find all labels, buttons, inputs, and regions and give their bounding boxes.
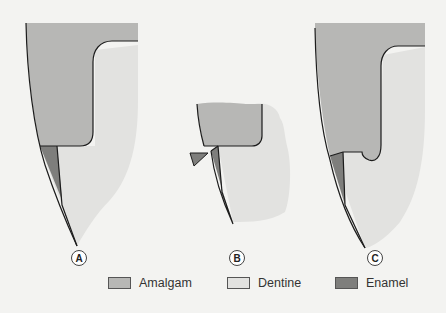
enamel-chip-b (190, 153, 208, 166)
legend-label-enamel: Enamel (366, 276, 408, 290)
legend-label-dentine: Dentine (258, 276, 301, 290)
legend-item-dentine: Dentine (227, 276, 301, 290)
panel-label-a: A (71, 250, 87, 266)
amalgam-swatch (108, 277, 131, 289)
panel-label-b: B (229, 250, 245, 266)
panel-label-c: C (367, 250, 383, 266)
legend-item-enamel: Enamel (335, 276, 408, 290)
panel-b (190, 102, 290, 224)
amalgam-region-b (197, 102, 262, 146)
dentine-swatch (227, 277, 250, 289)
legend-label-amalgam: Amalgam (139, 276, 192, 290)
dental-restoration-diagram: A B C Amalgam Dentine Enamel (0, 0, 446, 313)
panel-a (26, 23, 138, 246)
diagram-canvas (0, 0, 446, 313)
legend-item-amalgam: Amalgam (108, 276, 192, 290)
enamel-swatch (335, 277, 358, 289)
panel-c (315, 23, 425, 248)
